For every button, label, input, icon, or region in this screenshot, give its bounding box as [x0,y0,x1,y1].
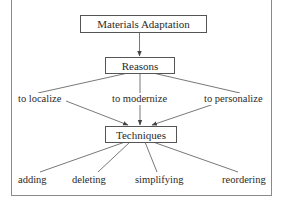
edge-techniques-to-simplifying [145,142,157,172]
technique-adding: adding [17,174,48,186]
edge-personalize-to-techniques [152,104,214,125]
techniques-node: Techniques [105,126,177,143]
root-node-label: Materials Adaptation [97,18,190,30]
reasons-node: Reasons [105,57,175,74]
reason-to-localize: to localize [17,93,62,105]
edge-techniques-to-reordering [153,142,238,172]
root-node-materials-adaptation: Materials Adaptation [80,15,207,33]
edge-techniques-to-adding [40,142,125,172]
reason-to-modernize: to modernize [111,93,168,105]
techniques-node-label: Techniques [116,129,166,141]
edge-reasons-to-personalize [153,73,240,93]
reasons-node-label: Reasons [122,60,159,72]
reason-to-personalize: to personalize [203,93,264,105]
edge-reasons-to-localize [38,73,128,93]
technique-reordering: reordering [221,174,267,186]
technique-deleting: deleting [71,174,107,186]
edge-techniques-to-deleting [98,142,130,172]
technique-simplifying: simplifying [134,174,184,186]
